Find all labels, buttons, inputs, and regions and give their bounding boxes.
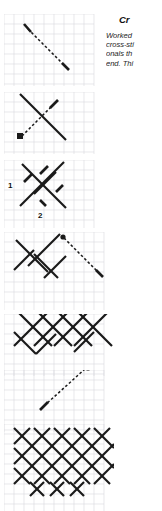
- article-body: Worked cross-sti onals th end. Thi: [106, 31, 162, 68]
- grid-lines: [4, 370, 104, 432]
- step-label-2: 2: [38, 211, 43, 220]
- return-travel-line: [60, 234, 103, 277]
- figure-page: Cr Worked cross-sti onals th end. Thi: [0, 0, 162, 511]
- cross-stitch-row: [14, 234, 66, 278]
- panel-7-svg: [4, 424, 114, 511]
- body-line: Worked: [106, 31, 162, 40]
- diagram-panel-2: [4, 92, 106, 154]
- diagram-panel-4: [4, 232, 114, 310]
- panel-1-svg: [4, 14, 106, 86]
- step-label-1: 1: [8, 181, 13, 190]
- panel-6-svg: [4, 370, 114, 432]
- diagram-panel-6: [4, 370, 114, 432]
- body-line: onals th: [106, 49, 162, 58]
- diagram-panel-5: [4, 314, 114, 376]
- page-title: Cr: [119, 14, 162, 25]
- panel-5-svg: [4, 314, 114, 376]
- diagram-panel-7: [4, 424, 114, 511]
- solid-stitch: [20, 94, 66, 140]
- stitch-travel-line: [24, 24, 69, 70]
- body-line: end. Thi: [106, 59, 162, 68]
- diagram-panel-1: [4, 14, 106, 86]
- panel-2-svg: [4, 92, 106, 154]
- diagram-panel-3: 1 2: [4, 160, 106, 228]
- panel-4-svg: [4, 232, 114, 310]
- panel-3-svg: 1 2: [4, 160, 106, 228]
- cross-stitch-strokes: [20, 162, 66, 208]
- article-text-column: Cr Worked cross-sti onals th end. Thi: [106, 14, 162, 68]
- body-line: cross-sti: [106, 40, 162, 49]
- stitch-travel-line: [17, 100, 58, 139]
- grid-lines: [4, 160, 94, 228]
